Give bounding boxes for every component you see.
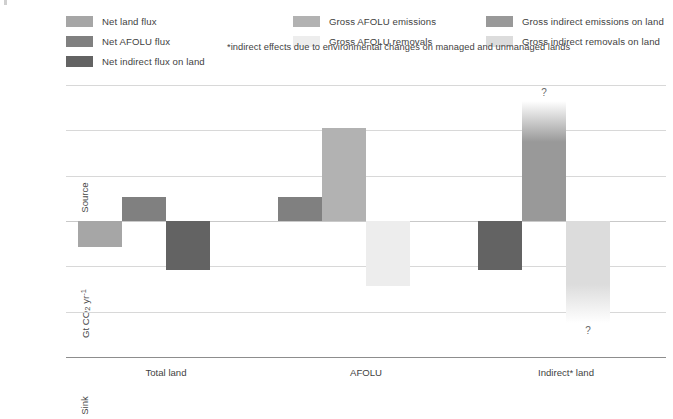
x-axis-category-label: Total land [86,367,246,378]
gridline [66,357,666,358]
y-axis-title-prefix: Gt CO [80,311,91,338]
bar-indirect-land-gross-indirect-emissions [522,101,566,221]
legend-swatch-icon [66,36,93,47]
gridline [66,85,666,86]
legend-item[interactable]: Net AFOLU flux [66,36,170,47]
y-axis-title-superscript: -1 [79,289,88,296]
axis-label-sink: Sink [79,381,90,419]
legend-footnote: *indirect effects due to environmental c… [227,42,570,53]
bar-afolu-net-afolu-flux [278,197,322,221]
legend-item-label: Net AFOLU flux [102,36,170,47]
bar-uncertainty-marker: ? [534,88,554,98]
legend-item-label: Net indirect flux on land [102,56,205,67]
x-axis-category-label: AFOLU [286,367,446,378]
y-axis-title-subscript: 2 [83,307,92,311]
y-axis-title-middle: yr [80,296,91,307]
legend-item-label: Gross AFOLU emissions [329,16,436,27]
bar-total-land-net-afolu-flux [122,197,166,221]
legend-item[interactable]: Net land flux [66,16,157,27]
legend-item[interactable]: Gross AFOLU emissions [293,16,436,27]
legend-item[interactable]: Net indirect flux on land [66,56,205,67]
bar-total-land-net-indirect-flux [166,221,210,270]
plot-area: Source Sink Gt CO2 yr-1 3020100–10–20–30… [66,85,666,357]
legend-item[interactable]: Gross indirect emissions on land [486,16,664,27]
bar-afolu-gross-removals [366,221,410,286]
legend-swatch-icon [66,16,93,27]
legend-swatch-icon [293,16,320,27]
gridline [66,130,666,131]
bar-indirect-land-net-indirect-flux [478,221,522,270]
bar-afolu-gross-emissions [322,128,366,221]
legend-item-label: Gross indirect emissions on land [522,16,664,27]
y-axis-title: Gt CO2 yr-1 [79,283,92,345]
bar-uncertainty-marker: ? [578,326,598,336]
axis-label-source: Source [79,173,90,223]
decorative-speck [4,0,7,5]
legend-item-label: Net land flux [102,16,157,27]
bar-indirect-land-gross-indirect-removals [566,221,610,323]
legend-swatch-icon [66,56,93,67]
bar-total-land-net-land-flux [78,221,122,247]
gridline [66,176,666,177]
x-axis-category-label: Indirect* land [486,367,646,378]
legend-swatch-icon [486,16,513,27]
